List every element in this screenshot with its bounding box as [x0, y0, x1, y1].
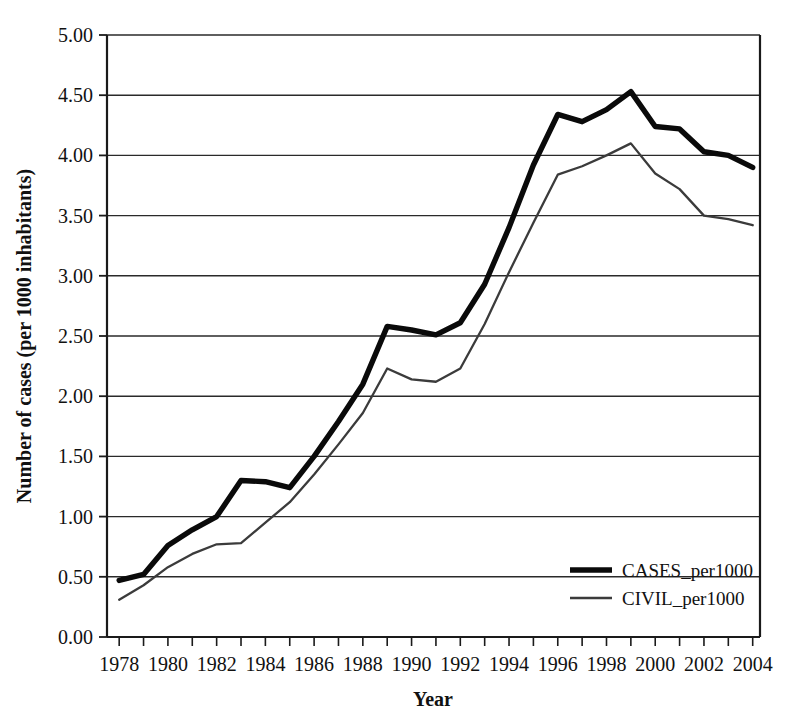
- x-axis-minor-ticks-group: [119, 637, 753, 646]
- y-axis-title: Number of cases (per 1000 inhabitants): [13, 169, 36, 503]
- x-tick-label: 1994: [489, 653, 529, 675]
- x-tick-label: 1978: [99, 653, 139, 675]
- y-tick-label: 0.50: [58, 566, 93, 588]
- gridlines-group: [107, 35, 760, 577]
- x-axis-title: Year: [413, 688, 453, 710]
- legend-label-civil-per1000: CIVIL_per1000: [622, 588, 744, 609]
- x-tick-label: 1998: [586, 653, 626, 675]
- y-tick-label: 2.00: [58, 385, 93, 407]
- y-axis-tick-labels-group: 0.000.501.001.502.002.503.003.504.004.50…: [58, 24, 93, 648]
- x-tick-label: 2004: [733, 653, 773, 675]
- series-line-civil-per1000: [119, 143, 753, 599]
- x-tick-label: 1992: [440, 653, 480, 675]
- x-tick-label: 1996: [538, 653, 578, 675]
- y-axis-ticks-group: [99, 35, 107, 637]
- x-tick-label: 2000: [635, 653, 675, 675]
- x-tick-label: 1984: [245, 653, 285, 675]
- y-tick-label: 5.00: [58, 24, 93, 46]
- line-chart-figure: 0.000.501.001.502.002.503.003.504.004.50…: [0, 0, 792, 723]
- y-tick-label: 3.00: [58, 265, 93, 287]
- x-tick-label: 1986: [294, 653, 334, 675]
- y-tick-label: 2.50: [58, 325, 93, 347]
- y-tick-label: 1.50: [58, 445, 93, 467]
- x-tick-label: 1990: [392, 653, 432, 675]
- x-axis-tick-labels-group: 1978198019821984198619881990199219941996…: [99, 653, 773, 675]
- y-tick-label: 1.00: [58, 506, 93, 528]
- y-tick-label: 3.50: [58, 205, 93, 227]
- y-tick-label: 4.50: [58, 84, 93, 106]
- x-tick-label: 2002: [684, 653, 724, 675]
- chart-legend: CASES_per1000CIVIL_per1000: [570, 560, 753, 609]
- data-series-group: [119, 92, 753, 600]
- x-tick-label: 1988: [343, 653, 383, 675]
- x-tick-label: 1980: [148, 653, 188, 675]
- legend-label-cases-per1000: CASES_per1000: [622, 560, 753, 581]
- x-tick-label: 1982: [197, 653, 237, 675]
- y-tick-label: 4.00: [58, 144, 93, 166]
- chart-canvas: 0.000.501.001.502.002.503.003.504.004.50…: [0, 0, 792, 723]
- y-tick-label: 0.00: [58, 626, 93, 648]
